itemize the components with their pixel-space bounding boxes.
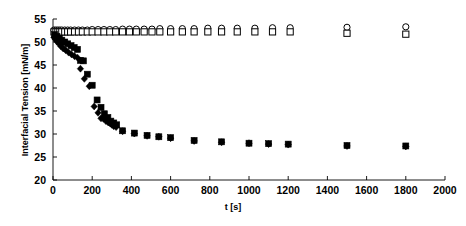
data-point-open-square [205, 29, 211, 35]
y-tick-label: 30 [34, 128, 46, 140]
scatter-plot-svg: 0200400600800100012001400160018002000202… [0, 0, 466, 226]
data-point-open-square [252, 29, 258, 35]
data-point-filled-square [403, 143, 409, 149]
y-tick-label: 35 [34, 105, 46, 117]
data-point-filled-square [191, 137, 197, 143]
data-point-open-square [179, 29, 185, 35]
data-point-open-square [149, 29, 155, 35]
x-tick-label: 1600 [355, 184, 379, 196]
series-filled-diamond-series [51, 34, 409, 150]
x-tick-label: 0 [50, 184, 56, 196]
data-point-filled-square [94, 97, 100, 103]
data-point-open-square [191, 29, 197, 35]
data-point-open-square [133, 29, 139, 35]
data-point-open-square [113, 29, 119, 35]
data-point-filled-square [120, 128, 126, 134]
y-tick-label: 40 [34, 82, 46, 94]
y-tick-label: 20 [34, 174, 46, 186]
data-point-open-square [168, 29, 174, 35]
data-point-open-square [234, 29, 240, 35]
data-point-filled-square [246, 140, 252, 146]
data-point-open-square [101, 29, 107, 35]
y-tick-label: 25 [34, 151, 46, 163]
y-axis-title: Interfacial Tension [mN/m] [20, 15, 30, 185]
data-point-filled-square [344, 143, 350, 149]
data-point-open-square [119, 29, 125, 35]
data-point-filled-square [266, 141, 272, 147]
data-point-open-square [157, 29, 163, 35]
x-tick-label: 600 [162, 184, 180, 196]
data-point-filled-square [84, 71, 90, 77]
x-axis-title: t [s] [193, 202, 273, 212]
x-tick-label: 1800 [394, 184, 418, 196]
data-point-open-square [287, 29, 293, 35]
y-tick-label: 55 [34, 13, 46, 25]
data-point-filled-square [168, 135, 174, 141]
data-point-open-square [218, 29, 224, 35]
data-point-filled-square [89, 82, 95, 88]
x-tick-label: 2000 [433, 184, 457, 196]
data-point-filled-square [114, 122, 120, 128]
data-point-open-square [141, 29, 147, 35]
y-tick-label: 50 [34, 36, 46, 48]
series-filled-square-series [52, 32, 409, 149]
data-point-open-square [269, 29, 275, 35]
chart-figure: 0200400600800100012001400160018002000202… [0, 0, 466, 226]
y-tick-label: 45 [34, 59, 46, 71]
data-point-filled-square [75, 46, 81, 52]
data-point-filled-square [156, 134, 162, 140]
x-tick-label: 800 [201, 184, 219, 196]
x-tick-label: 200 [83, 184, 101, 196]
data-point-filled-diamond [77, 65, 83, 72]
data-point-filled-square [131, 130, 137, 136]
data-point-filled-diamond [91, 103, 97, 110]
x-tick-label: 400 [123, 184, 141, 196]
x-tick-label: 1200 [277, 184, 301, 196]
data-point-open-square [126, 29, 132, 35]
data-point-open-circle [403, 24, 409, 30]
data-point-filled-square [144, 132, 150, 138]
data-point-open-square [89, 29, 95, 35]
data-point-filled-square [285, 141, 291, 147]
data-point-filled-square [98, 104, 104, 110]
data-point-filled-square [80, 58, 86, 64]
data-point-open-square [95, 29, 101, 35]
data-point-open-circle [344, 24, 350, 30]
data-point-filled-square [219, 139, 225, 145]
x-tick-label: 1400 [316, 184, 340, 196]
series-open-square-series [51, 29, 409, 37]
data-point-open-square [344, 30, 350, 36]
x-tick-label: 1000 [237, 184, 261, 196]
data-point-open-square [403, 31, 409, 37]
data-point-open-square [107, 29, 113, 35]
